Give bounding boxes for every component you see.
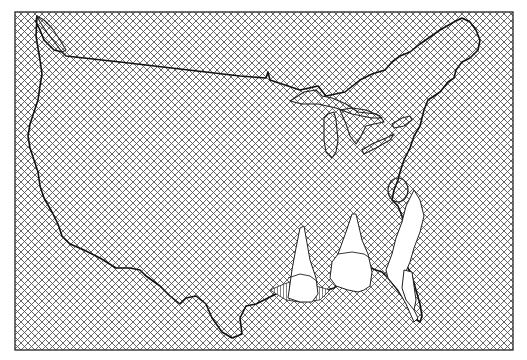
map-canvas: [0, 0, 527, 360]
map-figure: [0, 0, 527, 360]
